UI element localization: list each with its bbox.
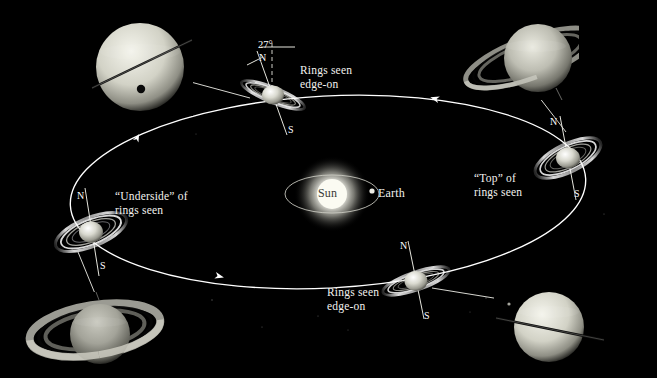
axial-tilt-label: 27°: [258, 39, 273, 50]
photo-top-left-shadow-dot: [137, 85, 145, 93]
annotation-rings-edge-on-top: Rings seen edge-on: [300, 64, 352, 91]
saturn-left-south-label: S: [100, 260, 106, 271]
saturn-ring-tilt-diagram: 27° N S N S N S N S Sun Earth Rings seen…: [0, 0, 657, 378]
saturn-top-south-label: S: [288, 124, 294, 135]
photo-bottom-right-planet: [514, 292, 584, 362]
diagram-stage: 27° N S N S N S N S Sun Earth Rings seen…: [0, 0, 657, 378]
saturn-bottom-body: [405, 271, 428, 291]
saturn-right-south-label: S: [574, 188, 580, 199]
annotation-rings-edge-on-bottom: Rings seen edge-on: [327, 286, 379, 313]
photo-bottom-left: [22, 292, 167, 365]
saturn-right-north-label: N: [550, 116, 557, 127]
saturn-bottom-north-label: N: [400, 240, 407, 251]
photo-bottom-right: [494, 288, 644, 366]
photo-top-right: [444, 10, 601, 100]
earth-label: Earth: [378, 186, 405, 200]
saturn-top-body: [262, 85, 284, 104]
saturn-left-north-label: N: [77, 190, 84, 201]
saturn-bottom-south-label: S: [424, 310, 430, 321]
saturn-left-body: [79, 222, 103, 243]
sun-label: Sun: [318, 186, 337, 200]
photo-top-left-planet: [96, 23, 184, 111]
photo-top-left: [88, 18, 193, 116]
saturn-right-body: [556, 148, 580, 169]
earth-dot: [369, 188, 374, 193]
annotation-top-of-rings: “Top” of rings seen: [474, 172, 522, 199]
annotation-underside-of-rings: “Underside” of rings seen: [115, 190, 188, 217]
saturn-top-north-label: N: [259, 52, 266, 63]
